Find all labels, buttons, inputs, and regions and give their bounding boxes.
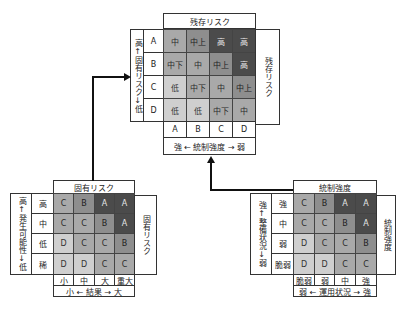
matrix-cell: 中 bbox=[186, 52, 210, 76]
residual-side-text: 残存リスク bbox=[264, 57, 272, 97]
matrix-cell: A bbox=[334, 193, 356, 214]
inherent-row-axis-label: 高↑発生可能性↓低 bbox=[10, 193, 32, 275]
residual-row-axis-label: 高↑固有リスク↓低 bbox=[130, 29, 144, 122]
matrix-cell: D bbox=[73, 253, 95, 275]
cell-value: D bbox=[81, 260, 87, 269]
matrix-cell: A bbox=[94, 193, 115, 214]
residual-row-label: B bbox=[143, 52, 164, 76]
cell-value: A bbox=[363, 219, 368, 228]
matrix-cell: B bbox=[334, 213, 356, 234]
inherent-title-text: 固有リスク bbox=[74, 182, 114, 193]
row-label-text: 高 bbox=[39, 198, 47, 209]
cell-value: 中下 bbox=[213, 105, 229, 116]
residual-col-label: D bbox=[232, 121, 256, 138]
matrix-cell: B bbox=[314, 193, 335, 214]
cell-value: 中 bbox=[171, 36, 179, 47]
cell-value: C bbox=[322, 219, 328, 228]
row-label-text: 強 bbox=[279, 198, 287, 209]
residual-row-label: A bbox=[143, 29, 164, 53]
col-label-text: 大 bbox=[101, 275, 109, 286]
col-label-text: 弱 bbox=[321, 275, 329, 286]
cell-value: B bbox=[363, 239, 369, 248]
cell-value: C bbox=[61, 199, 67, 208]
cell-value: 中上 bbox=[236, 82, 252, 93]
residual-row-axis-text: 高↑固有リスク↓低 bbox=[133, 39, 141, 113]
cell-value: D bbox=[60, 239, 66, 248]
matrix-cell: C bbox=[53, 213, 74, 234]
residual-col-axis-text: 強 ← 統制強度 → 弱 bbox=[174, 141, 246, 152]
matrix-cell: C bbox=[293, 213, 315, 234]
residual-col-label: A bbox=[163, 121, 187, 138]
control-col-axis-text: 弱 ← 運用状況 → 強 bbox=[299, 286, 371, 297]
cell-value: C bbox=[102, 260, 108, 269]
control-row-label: 強 bbox=[271, 193, 294, 214]
arrow-shaft-horizontal bbox=[210, 189, 293, 191]
cell-value: A bbox=[122, 219, 127, 228]
matrix-cell: 高 bbox=[232, 29, 256, 53]
matrix-cell: B bbox=[114, 233, 135, 254]
matrix-cell: C bbox=[94, 253, 115, 275]
cell-value: 中 bbox=[240, 105, 248, 116]
cell-value: D bbox=[301, 239, 307, 248]
residual-col-label: C bbox=[209, 121, 233, 138]
matrix-cell: C bbox=[73, 233, 95, 254]
cell-value: 中上 bbox=[190, 36, 206, 47]
residual-row-label: D bbox=[143, 98, 164, 122]
col-label-text: C bbox=[218, 125, 224, 134]
row-label-text: C bbox=[151, 83, 157, 92]
cell-value: 中下 bbox=[190, 82, 206, 93]
row-label-text: B bbox=[151, 60, 157, 69]
matrix-cell: 中上 bbox=[186, 29, 210, 53]
matrix-cell: C bbox=[314, 233, 335, 254]
inherent-row-axis-text: 高↑発生可能性↓低 bbox=[17, 197, 25, 271]
matrix-cell: A bbox=[114, 193, 135, 214]
matrix-cell: 中上 bbox=[232, 75, 256, 99]
cell-value: 高 bbox=[217, 36, 225, 47]
row-label-text: 弱 bbox=[279, 238, 287, 249]
control-row-axis-label: 強↑整備状況↓弱 bbox=[250, 193, 272, 275]
cell-value: D bbox=[301, 260, 307, 269]
inherent-row-label: 低 bbox=[31, 233, 54, 254]
cell-value: 中 bbox=[217, 82, 225, 93]
cell-value: 中 bbox=[194, 59, 202, 70]
inherent-side-label: 固有リスク bbox=[134, 195, 157, 275]
cell-value: C bbox=[322, 239, 328, 248]
cell-value: A bbox=[363, 199, 368, 208]
matrix-cell: 中 bbox=[232, 98, 256, 122]
cell-value: 低 bbox=[171, 105, 179, 116]
inherent-title: 固有リスク bbox=[53, 180, 135, 194]
arrow-head-up-icon bbox=[207, 156, 215, 163]
matrix-cell: 低 bbox=[163, 75, 187, 99]
matrix-cell: C bbox=[73, 213, 95, 234]
inherent-col-axis-text: 小 ← 結果 → 大 bbox=[66, 286, 122, 297]
matrix-cell: 低 bbox=[186, 98, 210, 122]
arrow-shaft-vertical bbox=[210, 162, 212, 190]
cell-value: D bbox=[321, 260, 327, 269]
matrix-cell: D bbox=[53, 233, 74, 254]
matrix-cell: 中下 bbox=[186, 75, 210, 99]
control-row-label: 弱 bbox=[271, 233, 294, 254]
cell-value: B bbox=[322, 199, 328, 208]
residual-side-label: 残存リスク bbox=[255, 29, 280, 125]
row-label-text: 中 bbox=[39, 218, 47, 229]
control-title: 統制強度 bbox=[293, 180, 377, 194]
cell-value: 低 bbox=[194, 105, 202, 116]
matrix-cell: D bbox=[293, 233, 315, 254]
col-label-text: B bbox=[195, 125, 201, 134]
col-label-text: A bbox=[172, 125, 177, 134]
col-label-text: 重大 bbox=[117, 275, 133, 286]
cell-value: B bbox=[342, 219, 348, 228]
matrix-cell: C bbox=[334, 253, 356, 275]
arrow-head-right-icon bbox=[124, 73, 131, 81]
control-side-label: 統制強度 bbox=[376, 195, 396, 275]
row-label-text: A bbox=[151, 37, 156, 46]
cell-value: C bbox=[61, 219, 67, 228]
matrix-cell: C bbox=[53, 193, 74, 214]
cell-value: C bbox=[342, 239, 348, 248]
residual-row-label: C bbox=[143, 75, 164, 99]
matrix-cell: 高 bbox=[209, 29, 233, 53]
matrix-cell: D bbox=[314, 253, 335, 275]
matrix-cell: 中下 bbox=[163, 52, 187, 76]
inherent-side-text: 固有リスク bbox=[142, 215, 150, 255]
cell-value: B bbox=[102, 219, 108, 228]
